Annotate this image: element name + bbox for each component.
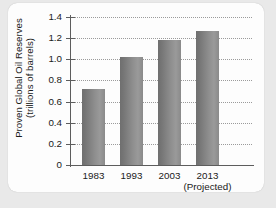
bar: [158, 40, 181, 165]
y-axis-tick-mark: [66, 80, 75, 81]
bar: [196, 31, 219, 165]
y-axis-tick-label: 0.2: [22, 138, 62, 149]
plot-area: [70, 17, 252, 165]
y-axis-tick-label: 1.2: [22, 32, 62, 43]
y-axis-tick-mark: [66, 165, 75, 166]
gridline: [70, 17, 252, 18]
y-axis-tick-mark: [66, 59, 75, 60]
bar: [82, 89, 105, 165]
y-axis-tick-label: 1.4: [22, 11, 62, 22]
y-axis-tick-mark: [66, 144, 75, 145]
bar-chart-figure: Proven Global Oil Reserves (trillions of…: [0, 0, 276, 208]
y-axis-tick-mark: [66, 17, 75, 18]
x-axis-line: [69, 165, 254, 166]
bar: [120, 57, 143, 165]
x-axis-tick-label: 2013: [178, 170, 238, 181]
y-axis-tick-mark: [66, 123, 75, 124]
y-axis-tick-label: 0.6: [22, 96, 62, 107]
y-axis-tick-mark: [66, 38, 75, 39]
y-axis-tick-label: 0.4: [22, 117, 62, 128]
y-axis-tick-label: 1.0: [22, 53, 62, 64]
projected-annotation: (Projected): [168, 181, 248, 192]
y-axis-tick-label: 0: [22, 159, 62, 170]
y-axis-tick-mark: [66, 102, 75, 103]
gridline: [70, 38, 252, 39]
y-axis-tick-label: 0.8: [22, 74, 62, 85]
